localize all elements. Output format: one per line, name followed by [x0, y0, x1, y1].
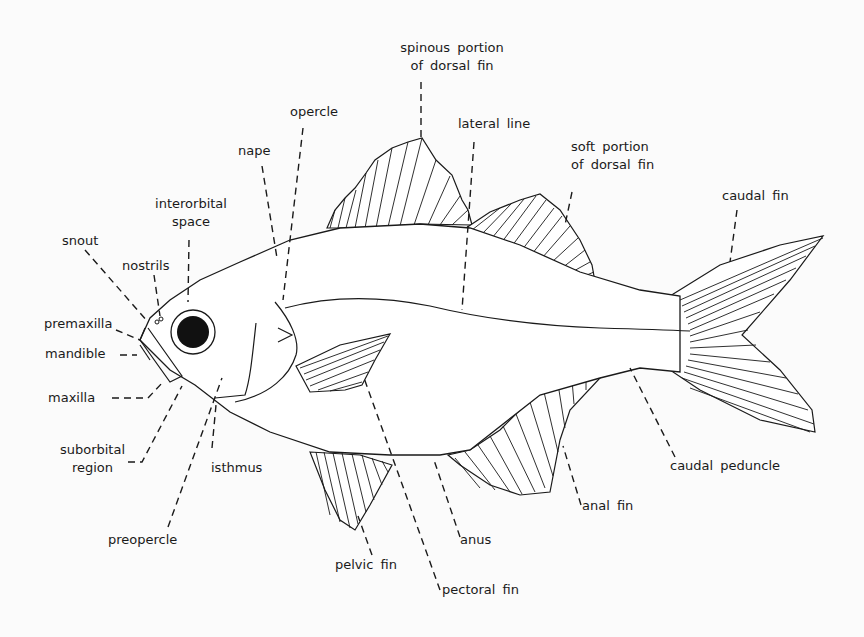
label-interorbital-line1: interorbital [136, 196, 246, 212]
label-opercle: opercle [290, 104, 338, 120]
eye-pupil [177, 316, 209, 348]
label-spinous-dorsal-line1: spinous portion [372, 40, 532, 56]
label-spinous-dorsal-line2: of dorsal fin [372, 58, 532, 74]
pelvic-fin [310, 452, 392, 530]
label-lateral-line: lateral line [458, 116, 530, 132]
label-snout: snout [62, 233, 98, 249]
label-pectoral-fin: pectoral fin [442, 582, 519, 598]
label-anus: anus [460, 532, 491, 548]
fish-body [140, 224, 680, 455]
fish-anatomy-diagram: spinous portion of dorsal fin lateral li… [0, 0, 864, 637]
label-anal-fin: anal fin [582, 498, 633, 514]
label-soft-dorsal-line2: of dorsal fin [571, 157, 654, 173]
label-isthmus: isthmus [211, 460, 262, 476]
label-mandible: mandible [45, 346, 106, 362]
label-pelvic-fin: pelvic fin [335, 557, 397, 573]
label-suborbital-line2: region [45, 460, 140, 476]
label-caudal-peduncle: caudal peduncle [670, 458, 780, 474]
label-caudal-fin: caudal fin [722, 188, 789, 204]
caudal-fin [670, 236, 823, 432]
label-preopercle: preopercle [108, 532, 177, 548]
label-suborbital-line1: suborbital [45, 442, 140, 458]
label-maxilla: maxilla [48, 390, 95, 406]
label-interorbital-line2: space [136, 214, 246, 230]
label-nape: nape [238, 143, 270, 159]
label-premaxilla: premaxilla [44, 316, 112, 332]
label-nostrils: nostrils [122, 258, 169, 274]
spinous-dorsal-fin [327, 138, 472, 228]
label-soft-dorsal-line1: soft portion [571, 139, 649, 155]
